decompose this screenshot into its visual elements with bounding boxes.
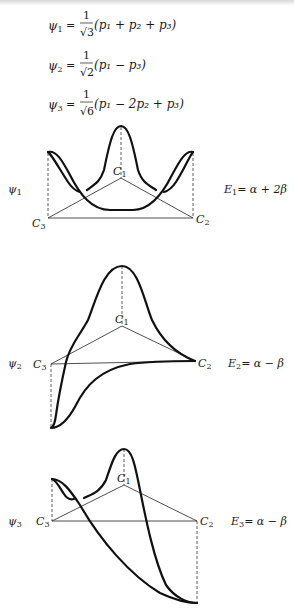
svg-text:ψ2: ψ2	[48, 59, 63, 74]
atom-c3-label: C3	[33, 358, 47, 372]
equation-psi2: ψ2 = 1 √2 (p₁ − p₃)	[48, 49, 146, 79]
atom-c1-label: C1	[117, 472, 131, 486]
svg-text:√6: √6	[80, 105, 94, 118]
atom-c3-label: C3	[36, 515, 50, 529]
atom-c2-label: C2	[198, 357, 212, 371]
svg-text:ψ3: ψ3	[48, 98, 63, 113]
orbital-label: ψ2	[8, 357, 22, 371]
orbital-label: ψ1	[8, 183, 22, 197]
svg-text:=: =	[66, 98, 75, 111]
svg-text:=: =	[66, 59, 75, 72]
svg-text:1: 1	[83, 49, 90, 62]
svg-text:√2: √2	[80, 66, 94, 79]
molecular-orbital-diagram: ψ1 = 1 √3 (p₁ + p₂ + p₃) ψ2 = 1 √2 (p₁ −…	[0, 0, 294, 613]
svg-text:(p₁ + p₂ + p₃): (p₁ + p₂ + p₃)	[94, 18, 177, 32]
atom-c3-label: C3	[32, 217, 46, 231]
svg-text:(p₁ − p₃): (p₁ − p₃)	[94, 58, 146, 72]
orbital-psi1: ψ1 C1 C3 C2 E1= α + 2β	[8, 126, 287, 231]
atom-c1-label: C1	[113, 165, 127, 179]
energy-label: E2= α − β	[227, 357, 284, 371]
svg-text:1: 1	[83, 88, 90, 101]
equation-psi1: ψ1 = 1 √3 (p₁ + p₂ + p₃)	[48, 9, 177, 39]
atom-c2-label: C2	[196, 213, 210, 227]
svg-text:ψ1: ψ1	[48, 19, 63, 34]
svg-text:1: 1	[83, 9, 90, 22]
atom-c1-label: C1	[115, 313, 129, 327]
orbital-label: ψ3	[8, 515, 22, 529]
energy-label: E3= α − β	[230, 515, 287, 529]
orbital-psi2: ψ2 C1 C3 C2 E2= α − β	[8, 266, 284, 428]
atom-c2-label: C2	[200, 515, 214, 529]
orbital-psi3: ψ3 C1 C3 C2 E3= α − β	[8, 449, 287, 603]
svg-text:(p₁ − 2p₂ + p₃): (p₁ − 2p₂ + p₃)	[94, 97, 184, 111]
energy-label: E1= α + 2β	[223, 183, 287, 197]
svg-text:=: =	[66, 19, 75, 32]
equation-psi3: ψ3 = 1 √6 (p₁ − 2p₂ + p₃)	[48, 88, 184, 118]
svg-text:√3: √3	[80, 26, 94, 39]
